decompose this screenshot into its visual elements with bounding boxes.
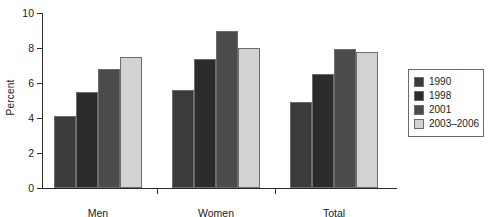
bar-group [54, 13, 142, 188]
bar [172, 90, 194, 188]
y-axis-tick-label: 6 [28, 77, 34, 89]
legend-swatch-icon [414, 119, 424, 129]
legend-item-label: 2001 [429, 105, 451, 115]
bar [238, 48, 260, 188]
x-axis-tick [275, 189, 276, 194]
bar [356, 52, 378, 188]
legend-item-label: 2003–2006 [429, 119, 479, 129]
bar [120, 57, 142, 188]
x-axis-tick [157, 189, 158, 194]
legend-swatch-icon [414, 77, 424, 87]
plot-area: 0246810 MenWomenTotal [42, 13, 397, 189]
bar-group [172, 13, 260, 188]
y-axis-tick [37, 153, 42, 154]
x-axis-category-label: Total [323, 207, 345, 217]
y-axis-tick-label: 10 [22, 7, 34, 19]
legend-item[interactable]: 1990 [414, 75, 477, 89]
x-axis-category-label: Women [198, 207, 234, 217]
legend-item[interactable]: 2003–2006 [414, 117, 477, 131]
y-axis-tick-label: 4 [28, 112, 34, 124]
y-axis-line [42, 13, 43, 189]
y-axis-label-text: Percent [6, 80, 17, 116]
legend-swatch-icon [414, 91, 424, 101]
legend: 1990199820012003–2006 [408, 69, 484, 137]
bar [312, 74, 334, 188]
bar-chart-figure: Percent 0246810 MenWomenTotal 1990199820… [0, 0, 490, 217]
x-axis-line [42, 188, 397, 189]
bar [334, 49, 356, 188]
y-axis-tick-label: 2 [28, 147, 34, 159]
y-axis-label: Percent [2, 0, 20, 195]
y-axis-tick-label: 8 [28, 42, 34, 54]
bar [76, 92, 98, 188]
y-axis-tick [37, 118, 42, 119]
legend-item[interactable]: 1998 [414, 89, 477, 103]
y-axis-tick [37, 13, 42, 14]
y-axis-tick-label: 0 [28, 182, 34, 194]
y-axis-tick [37, 83, 42, 84]
legend-swatch-icon [414, 105, 424, 115]
bar [54, 116, 76, 188]
y-axis-tick [37, 48, 42, 49]
bar-group [290, 13, 378, 188]
bar [98, 69, 120, 188]
legend-item-label: 1998 [429, 91, 451, 101]
y-axis-tick [37, 188, 42, 189]
x-axis-category-label: Men [88, 207, 108, 217]
legend-item-label: 1990 [429, 77, 451, 87]
bar [194, 59, 216, 189]
legend-item[interactable]: 2001 [414, 103, 477, 117]
bar [290, 102, 312, 188]
bar [216, 31, 238, 188]
